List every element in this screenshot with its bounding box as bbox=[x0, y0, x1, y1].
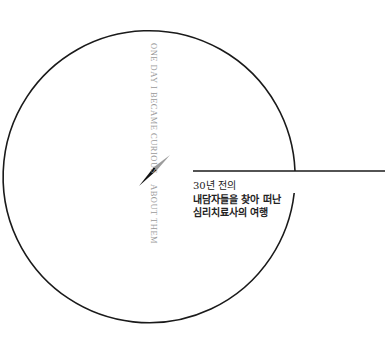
vertical-tagline-bottom: ABOUT THEM bbox=[149, 184, 159, 244]
caption-line-3: 심리치료사의 여행 bbox=[193, 206, 281, 220]
caption-line-1: 30년 전의 bbox=[193, 179, 281, 193]
vertical-tagline-top: ONE DAY I BECAME CURIOUS bbox=[149, 43, 159, 174]
cover-artwork bbox=[0, 0, 389, 337]
caption: 30년 전의 내담자들을 찾아 떠난 심리치료사의 여행 bbox=[193, 179, 281, 220]
caption-line-2: 내담자들을 찾아 떠난 bbox=[193, 193, 281, 207]
